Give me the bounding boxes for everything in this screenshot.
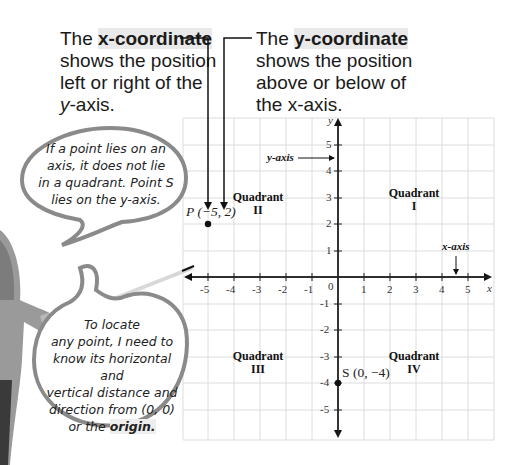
y-tick-label: 5 xyxy=(326,138,332,150)
x-tick-label: -1 xyxy=(304,283,313,295)
x-tick-label: 5 xyxy=(465,283,471,295)
bubble-line: any point, I need to xyxy=(40,333,184,350)
quadrant-numeral: I xyxy=(386,200,442,213)
y-tick-label: 1 xyxy=(326,244,332,256)
y-coordinate-pointer xyxy=(224,38,252,208)
bubble-line: lies on the y-axis. xyxy=(26,191,186,208)
bubble-line: axis, it does not lie xyxy=(26,157,186,174)
y-tick-label: -4 xyxy=(320,376,329,388)
x-axis-name: x xyxy=(487,282,492,294)
point-s-label: S (0, −4) xyxy=(342,365,390,381)
quadrant-i-label: Quadrant I xyxy=(386,187,442,213)
x-tick-label: 4 xyxy=(439,283,445,295)
y-tick-label: -5 xyxy=(320,403,329,415)
bubble-line: or the xyxy=(68,419,109,434)
y-tick-label: -2 xyxy=(320,323,329,335)
quadrant-ii-label: Quadrant II xyxy=(230,191,286,217)
bubble-line: vertical distance and xyxy=(40,384,184,401)
origin-label: 0 xyxy=(328,280,334,292)
bubble-line: If a point lies on an xyxy=(26,140,186,157)
bubble-line: in a quadrant. Point S xyxy=(26,174,186,191)
x-tick-label: -4 xyxy=(226,283,235,295)
quadrant-numeral: II xyxy=(230,204,286,217)
bubble-line: To locate xyxy=(40,316,184,333)
quadrant-iv-label: Quadrant IV xyxy=(386,350,442,376)
y-tick-label: 3 xyxy=(326,191,332,203)
y-tick-label: -1 xyxy=(320,297,329,309)
y-tick-label: 4 xyxy=(326,164,332,176)
x-tick-label: -5 xyxy=(200,283,209,295)
quadrant-numeral: III xyxy=(230,363,286,376)
point-p-label: P (−5, 2) xyxy=(186,204,236,220)
origin-term: origin. xyxy=(110,419,156,434)
x-tick-label: 3 xyxy=(413,283,419,295)
bubble-line: know its horizontal and xyxy=(40,350,184,384)
x-tick-label: -3 xyxy=(252,283,261,295)
y-tick-label: 2 xyxy=(326,217,332,229)
y-axis-annotation: y-axis xyxy=(267,151,294,163)
x-tick-label: 2 xyxy=(387,283,393,295)
y-tick-label: -3 xyxy=(320,350,329,362)
speech-bubble-top-text: If a point lies on an axis, it does not … xyxy=(26,140,186,208)
x-axis-annotation: x-axis xyxy=(442,240,470,252)
y-axis-name: y xyxy=(328,114,333,126)
bubble-line: direction from (0, 0) xyxy=(40,401,184,418)
x-tick-label: -2 xyxy=(278,283,287,295)
point-s xyxy=(335,380,341,386)
point-p xyxy=(205,221,211,227)
quadrant-numeral: IV xyxy=(386,363,442,376)
speech-bubble-bottom-text: To locate any point, I need to know its … xyxy=(40,316,184,435)
quadrant-iii-label: Quadrant III xyxy=(230,350,286,376)
x-tick-label: 1 xyxy=(361,283,367,295)
